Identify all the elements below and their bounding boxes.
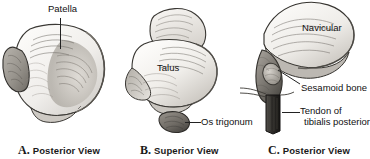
tendon-label-line1: Tendon of (300, 105, 342, 116)
label-patella: Patella (48, 3, 77, 14)
tendon-label-line2: tibialis posterior (300, 116, 370, 127)
caption-panel-c: C. Posterior View (268, 144, 350, 157)
caption-c-text: Posterior View (283, 145, 350, 156)
tendon-leader-line (282, 112, 300, 113)
caption-panel-a: A. Posterior View (18, 144, 100, 157)
label-talus: Talus (157, 62, 179, 73)
label-navicular: Navicular (302, 22, 342, 33)
caption-panel-b: B. Superior View (140, 144, 219, 157)
patella-leader-line (60, 18, 61, 49)
os-trigonum-leader-line (185, 122, 201, 123)
caption-b-text: Superior View (154, 145, 218, 156)
label-tendon-of-tibialis-posterior: Tendon of tibialis posterior (300, 105, 370, 127)
caption-c-letter: C. (268, 143, 280, 157)
label-sesamoid-bone: Sesamoid bone (301, 82, 367, 93)
caption-a-text: Posterior View (33, 145, 100, 156)
tendon-of-tibialis-posterior (266, 95, 280, 134)
panel-a-posterior-view (0, 0, 118, 136)
caption-b-letter: B. (140, 143, 151, 157)
patella-illustration (0, 0, 118, 136)
caption-a-letter: A. (18, 143, 30, 157)
